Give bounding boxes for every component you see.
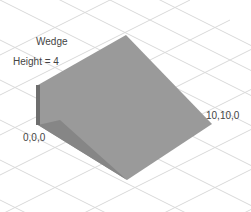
wedge-top-face — [38, 35, 212, 180]
wedge-diagram — [0, 0, 251, 212]
origin-coordinate-label: 0,0,0 — [23, 133, 45, 143]
wedge-side-face — [36, 85, 40, 125]
wedge-shape — [36, 35, 212, 180]
shape-name-label: Wedge — [36, 37, 68, 47]
height-label: Height = 4 — [13, 57, 59, 67]
corner-coordinate-label: 10,10,0 — [206, 111, 239, 121]
